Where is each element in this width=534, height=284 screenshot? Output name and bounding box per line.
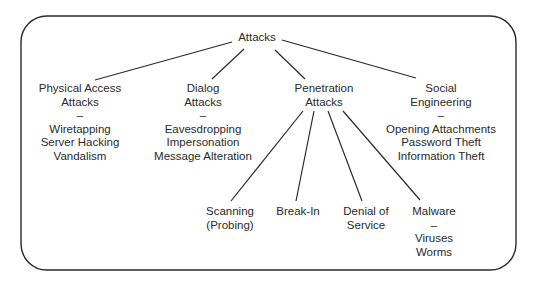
- node-title: (Probing): [206, 219, 254, 233]
- node-title: Attacks: [39, 96, 121, 110]
- node-item: Viruses: [412, 232, 455, 246]
- node-title: Attacks: [154, 96, 252, 110]
- node-item: Message Alteration: [154, 150, 252, 164]
- edge-pen-breakin: [296, 111, 314, 201]
- node-title: Attacks: [295, 96, 354, 110]
- node-dialog-attacks: Dialog Attacks – Eavesdropping Impersona…: [154, 82, 252, 163]
- node-item: Worms: [412, 246, 455, 260]
- edge-root-social: [282, 40, 416, 78]
- node-physical-access-attacks: Physical Access Attacks – Wiretapping Se…: [39, 82, 121, 163]
- node-social-engineering: Social Engineering – Opening Attachments…: [386, 82, 496, 163]
- edge-root-physical: [95, 42, 232, 80]
- node-title: Service: [343, 219, 388, 233]
- node-item: Server Hacking: [39, 136, 121, 150]
- node-title: Social: [386, 82, 496, 96]
- node-separator: –: [412, 219, 455, 233]
- node-separator: –: [39, 109, 121, 123]
- node-item: Wiretapping: [39, 123, 121, 137]
- node-title: Physical Access: [39, 82, 121, 96]
- node-separator: –: [386, 109, 496, 123]
- node-title: Scanning: [206, 205, 254, 219]
- node-label: Attacks: [238, 31, 276, 45]
- node-item: Password Theft: [386, 136, 496, 150]
- node-item: Vandalism: [39, 150, 121, 164]
- edge-root-penetration: [275, 50, 305, 79]
- node-title: Break-In: [276, 205, 319, 219]
- node-item: Opening Attachments: [386, 123, 496, 137]
- node-item: Information Theft: [386, 150, 496, 164]
- node-title: Malware: [412, 205, 455, 219]
- node-break-in: Break-In: [276, 205, 319, 219]
- node-title: Dialog: [154, 82, 252, 96]
- edge-root-dialog: [212, 49, 244, 79]
- node-scanning-probing: Scanning (Probing): [206, 205, 254, 232]
- node-malware: Malware – Viruses Worms: [412, 205, 455, 259]
- edge-pen-dos: [328, 111, 362, 201]
- node-denial-of-service: Denial of Service: [343, 205, 388, 232]
- node-title: Penetration: [295, 82, 354, 96]
- node-root-attacks: Attacks: [238, 31, 276, 45]
- node-item: Eavesdropping: [154, 123, 252, 137]
- node-title: Engineering: [386, 96, 496, 110]
- node-penetration-attacks: Penetration Attacks: [295, 82, 354, 109]
- node-separator: –: [154, 109, 252, 123]
- node-title: Denial of: [343, 205, 388, 219]
- node-item: Impersonation: [154, 136, 252, 150]
